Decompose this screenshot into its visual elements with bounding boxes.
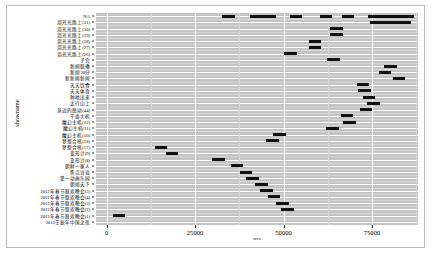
- y-axis-tick: [92, 159, 94, 160]
- gridline-horizontal: [96, 66, 418, 67]
- data-point: [276, 139, 279, 142]
- y-axis-tick-label: 梦想合唱(18): [62, 138, 90, 143]
- y-axis-tick-label: 2012年春节联欢晚会(1): [40, 213, 90, 218]
- y-axis-tick-label: 魔幻主机(12): [62, 120, 90, 125]
- gridline-horizontal-minor: [96, 75, 418, 76]
- gridline-horizontal-minor: [96, 150, 418, 151]
- gridline-horizontal: [96, 160, 418, 161]
- data-point: [240, 164, 243, 167]
- y-axis-tick-label: 梦想合唱(17): [62, 145, 90, 150]
- y-axis-tick-label: 新闻30分: [70, 70, 90, 75]
- y-axis-tick: [92, 140, 94, 141]
- gridline-horizontal-minor: [96, 194, 418, 195]
- y-axis-tick-label: 太行山上: [70, 101, 90, 106]
- gridline-horizontal: [96, 203, 418, 204]
- gridline-horizontal-minor: [96, 69, 418, 70]
- y-axis-tick: [92, 90, 94, 91]
- y-axis-tick: [92, 215, 94, 216]
- x-axis-tick-label: 75000: [364, 229, 380, 236]
- gridline-vertical: [195, 13, 196, 225]
- data-point: [256, 177, 259, 180]
- y-axis-tick-label: 天天体育: [70, 88, 90, 93]
- y-axis-tick-label: 新闻联播: [70, 64, 90, 69]
- gridline-horizontal-minor: [96, 156, 418, 157]
- y-axis-tick: [92, 178, 94, 179]
- gridline-horizontal-minor: [96, 163, 418, 164]
- x-axis-tick-label: 50000: [275, 229, 291, 236]
- gridline-horizontal-minor: [96, 38, 418, 39]
- gridline-horizontal: [96, 197, 418, 198]
- y-axis-tick: [92, 165, 94, 166]
- gridline-horizontal: [96, 85, 418, 86]
- data-point: [299, 15, 302, 18]
- gridline-horizontal-minor: [96, 144, 418, 145]
- y-axis-tick-label: NA: [83, 14, 90, 19]
- y-axis-tick: [92, 196, 94, 197]
- y-axis-tick-label: 子宫: [80, 57, 90, 62]
- y-axis-tick: [92, 53, 94, 54]
- data-point: [388, 71, 391, 74]
- gridline-horizontal-minor: [96, 32, 418, 33]
- chart-figure: showname NA泪光光路上(31)泪光光路上(30)泪光光路上(29)泪光…: [0, 0, 432, 254]
- y-axis-tick: [92, 103, 94, 104]
- y-axis-tick-label: 魔幻主机(11): [63, 126, 90, 131]
- y-axis-tick: [92, 109, 94, 110]
- y-axis-tick-label: 变形计(9): [70, 151, 90, 156]
- y-axis-tick-label: 2012年春节联欢晚会(4): [40, 194, 90, 199]
- data-point: [336, 127, 339, 130]
- data-point: [294, 52, 297, 55]
- gridline-horizontal: [96, 122, 418, 123]
- gridline-vertical: [372, 13, 373, 225]
- y-axis-tick: [92, 66, 94, 67]
- y-axis-tick: [92, 22, 94, 23]
- gridline-horizontal: [96, 47, 418, 48]
- gridline-horizontal: [96, 72, 418, 73]
- y-axis-tick: [92, 184, 94, 185]
- gridline-horizontal: [96, 141, 418, 142]
- gridline-horizontal-minor: [96, 169, 418, 170]
- gridline-horizontal: [96, 172, 418, 173]
- y-axis-tick-label: 朝鲜一家人: [65, 163, 90, 168]
- data-point: [222, 158, 225, 161]
- gridline-horizontal-minor: [96, 219, 418, 220]
- gridline-horizontal: [96, 216, 418, 217]
- y-axis-tick: [92, 34, 94, 35]
- gridline-horizontal-minor: [96, 138, 418, 139]
- y-axis-tick-label: 2012年春节联欢晚会(5): [40, 188, 90, 193]
- gridline-horizontal-minor: [96, 82, 418, 83]
- gridline-horizontal-minor: [96, 200, 418, 201]
- data-point: [265, 183, 268, 186]
- gridline-horizontal-minor: [96, 119, 418, 120]
- gridline-horizontal-minor: [96, 57, 418, 58]
- gridline-horizontal: [96, 41, 418, 42]
- y-axis-tick: [92, 203, 94, 204]
- y-axis-tick: [92, 122, 94, 123]
- y-axis-tick: [92, 28, 94, 29]
- gridline-horizontal-minor: [96, 25, 418, 26]
- data-point: [260, 15, 263, 18]
- x-axis-tick-label: 25000: [187, 229, 203, 236]
- gridline-horizontal-minor: [96, 50, 418, 51]
- data-point: [164, 146, 167, 149]
- gridline-horizontal: [96, 78, 418, 79]
- data-point: [402, 77, 405, 80]
- y-axis-tick: [92, 16, 94, 17]
- y-axis-tick: [92, 128, 94, 129]
- data-point: [270, 189, 273, 192]
- y-axis-tick-label: 千面大机: [70, 113, 90, 118]
- y-axis-tick-label: 泪光光路上(30): [57, 26, 90, 31]
- gridline-horizontal: [96, 35, 418, 36]
- data-point: [286, 202, 289, 205]
- y-axis-tick-label: 新新闻新闻: [65, 76, 90, 81]
- data-point: [372, 96, 375, 99]
- gridline-horizontal-minor: [96, 63, 418, 64]
- gridline-horizontal-minor: [96, 44, 418, 45]
- y-axis-tick: [92, 209, 94, 210]
- y-axis-tick: [92, 41, 94, 42]
- gridline-vertical: [107, 13, 108, 225]
- y-axis-tick: [92, 221, 94, 222]
- data-point: [291, 208, 294, 211]
- gridline-horizontal: [96, 116, 418, 117]
- y-axis-tick-label: 泪光光路上(29): [57, 32, 90, 37]
- data-point: [380, 21, 383, 24]
